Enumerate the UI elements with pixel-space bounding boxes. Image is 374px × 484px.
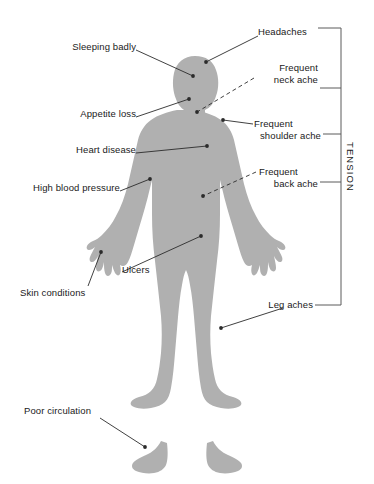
label-skin-conditions: Skin conditions <box>20 287 85 299</box>
dot-high-blood-pressure <box>148 177 152 181</box>
label-ulcers: Ulcers <box>122 264 150 276</box>
dot-skin-conditions <box>99 250 103 254</box>
leader-line-poor-circulation <box>100 418 145 447</box>
label-frequent-back-ache-line2: back ache <box>196 178 318 190</box>
dot-neck <box>195 110 199 114</box>
leader-line-headaches <box>206 36 258 62</box>
dot-heart-disease <box>205 144 209 148</box>
leader-line-leg-aches <box>221 308 283 328</box>
left-foot-shape <box>132 441 168 473</box>
label-headaches: Headaches <box>258 26 307 38</box>
tension-bracket <box>315 28 341 305</box>
dot-poor-circulation <box>143 445 147 449</box>
dot-sleeping-badly <box>191 74 195 78</box>
label-frequent-shoulder-ache-line2: shoulder ache <box>196 130 321 142</box>
bracket-label-tension: TENSION <box>345 142 356 192</box>
label-frequent-neck-ache: Frequent neck ache <box>196 62 318 85</box>
body-symptom-diagram: Headaches Sleeping badly Appetite loss H… <box>0 0 374 484</box>
right-foot-shape <box>206 441 242 473</box>
label-sleeping-badly: Sleeping badly <box>23 41 136 53</box>
dot-ulcers <box>199 234 203 238</box>
dot-back-ache <box>201 194 205 198</box>
label-appetite-loss: Appetite loss <box>23 108 136 120</box>
label-frequent-back-ache-line1: Frequent <box>196 166 318 178</box>
label-frequent-shoulder-ache-line1: Frequent <box>196 118 321 130</box>
label-poor-circulation: Poor circulation <box>24 405 91 417</box>
dot-appetite-loss <box>187 97 191 101</box>
label-frequent-shoulder-ache: Frequent shoulder ache <box>196 118 321 141</box>
label-leg-aches: Leg aches <box>235 299 313 311</box>
label-frequent-neck-ache-line2: neck ache <box>196 74 318 86</box>
label-frequent-neck-ache-line1: Frequent <box>196 62 318 74</box>
dot-leg-aches <box>219 326 223 330</box>
label-frequent-back-ache: Frequent back ache <box>196 166 318 189</box>
label-high-blood-pressure: High blood pressure <box>7 182 120 194</box>
label-heart-disease: Heart disease <box>23 144 136 156</box>
